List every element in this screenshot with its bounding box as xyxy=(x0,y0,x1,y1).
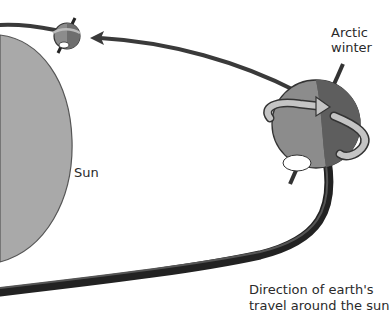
earth-large xyxy=(268,64,365,184)
direction-label-line1: Direction of earth's xyxy=(249,282,374,298)
orbit-path-top xyxy=(0,25,55,30)
arctic-winter-label-line2: winter xyxy=(331,40,372,56)
sun xyxy=(0,35,72,262)
orbit-arrow xyxy=(100,38,298,92)
sun-label: Sun xyxy=(74,165,99,181)
arctic-winter-label-line1: Arctic xyxy=(331,25,368,41)
earth-small xyxy=(53,18,80,53)
direction-label-line2: travel around the sun xyxy=(249,298,389,314)
